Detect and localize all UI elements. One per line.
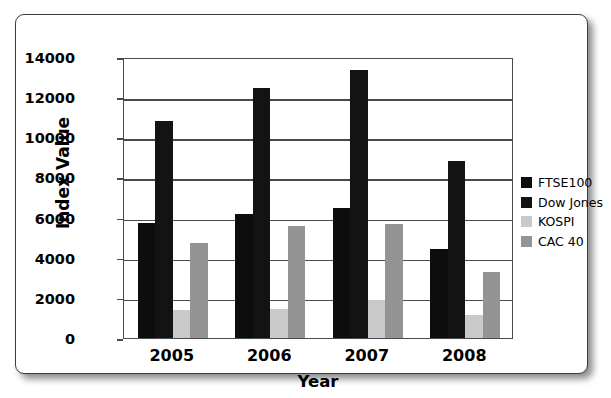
legend-swatch-icon — [521, 197, 532, 208]
legend-item-kospi[interactable]: KOSPI — [521, 212, 603, 232]
plot-area — [123, 58, 513, 339]
bar-cac-40-2006 — [288, 226, 306, 338]
legend-swatch-icon — [521, 236, 532, 247]
y-axis-tick-label: 12000 — [0, 91, 75, 106]
bar-cac-40-2007 — [385, 224, 403, 338]
y-axis-tick-label: 10000 — [0, 131, 75, 146]
legend-swatch-icon — [521, 177, 532, 188]
legend-label: KOSPI — [538, 214, 575, 229]
legend-label: FTSE100 — [538, 175, 592, 190]
x-axis-tick-label-2005: 2005 — [127, 346, 217, 365]
bar-kospi-2005 — [173, 310, 191, 338]
bar-ftse100-2007 — [333, 208, 351, 338]
bar-kospi-2007 — [368, 300, 386, 338]
y-axis-tick-mark — [117, 339, 123, 341]
x-axis-title: Year — [123, 372, 513, 391]
chart-figure: Index Value 0200040006000800010000120001… — [0, 0, 611, 398]
gridline — [124, 139, 512, 141]
bar-kospi-2008 — [465, 315, 483, 338]
bar-ftse100-2006 — [235, 214, 253, 338]
y-axis-tick-label: 4000 — [0, 252, 75, 267]
bar-kospi-2006 — [270, 309, 288, 338]
x-axis-tick-label-2008: 2008 — [419, 346, 509, 365]
legend-item-cac-40[interactable]: CAC 40 — [521, 232, 603, 252]
legend-item-ftse100[interactable]: FTSE100 — [521, 173, 603, 193]
y-axis-tick-label: 8000 — [0, 171, 75, 186]
bar-cac-40-2005 — [190, 243, 208, 338]
legend-item-dow-jones[interactable]: Dow Jones — [521, 193, 603, 213]
bar-dow-jones-2006 — [253, 88, 271, 338]
y-axis-tick-label: 6000 — [0, 212, 75, 227]
bar-dow-jones-2007 — [350, 70, 368, 338]
legend-label: Dow Jones — [538, 195, 603, 210]
bar-ftse100-2005 — [138, 223, 156, 338]
y-axis-tick-label: 2000 — [0, 292, 75, 307]
bar-dow-jones-2005 — [155, 121, 173, 338]
bar-cac-40-2008 — [483, 272, 501, 338]
bar-dow-jones-2008 — [448, 161, 466, 338]
x-axis-tick-label-2006: 2006 — [224, 346, 314, 365]
x-axis-tick-label-2007: 2007 — [322, 346, 412, 365]
gridline — [124, 99, 512, 101]
legend-swatch-icon — [521, 216, 532, 227]
legend-label: CAC 40 — [538, 234, 584, 249]
figure-frame: Index Value 0200040006000800010000120001… — [15, 14, 588, 374]
y-axis-tick-label: 0 — [0, 332, 75, 347]
chart-legend: FTSE100Dow JonesKOSPICAC 40 — [521, 173, 603, 251]
bar-ftse100-2008 — [430, 249, 448, 338]
y-axis-tick-label: 14000 — [0, 51, 75, 66]
